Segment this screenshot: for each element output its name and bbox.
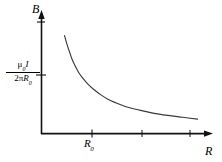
x-axis xyxy=(41,130,213,136)
current-symbol: I xyxy=(25,59,28,69)
y-axis-value-label: μ0I 2πR0 xyxy=(6,60,40,85)
mu-subscript: 0 xyxy=(22,66,25,72)
y-axis-value-denominator: 2πR0 xyxy=(6,74,40,86)
x-axis-arrowhead xyxy=(204,130,213,136)
x-axis-tick-label-r0: R0 xyxy=(84,138,94,152)
magnetic-field-vs-radius-figure: B R μ0I 2πR0 R0 xyxy=(0,0,222,162)
radius-subscript: 0 xyxy=(29,80,32,86)
field-decay-curve xyxy=(65,36,198,119)
y-axis-label: B xyxy=(32,3,39,15)
x-axis-label: R xyxy=(205,145,212,157)
y-axis-value-numerator: μ0I xyxy=(6,60,40,72)
r0-subscript: 0 xyxy=(90,145,94,153)
radius-symbol: R xyxy=(23,73,29,83)
